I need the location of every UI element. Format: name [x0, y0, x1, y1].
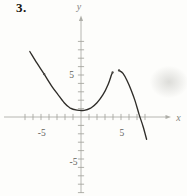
- x-tick-label: 5: [119, 128, 124, 138]
- y-axis-label: y: [76, 1, 82, 12]
- y-tick-label: -5: [70, 157, 78, 167]
- curve-point-marker: [118, 69, 120, 71]
- curve-point-marker: [111, 71, 113, 73]
- x-axis-label: x: [175, 112, 181, 123]
- y-tick-label: 5: [69, 70, 74, 80]
- function-graph-canvas: -555-5xy: [0, 0, 187, 196]
- curve-point-marker: [43, 73, 45, 75]
- x-tick-label: -5: [38, 128, 46, 138]
- y-axis-arrowhead: [79, 16, 83, 22]
- curve-left-branch: [30, 52, 113, 111]
- x-axis-arrowhead: [166, 115, 172, 119]
- math-figure: 3. -555-5xy: [0, 0, 187, 196]
